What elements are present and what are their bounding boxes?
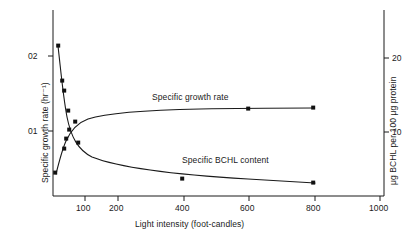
x-ticks [85, 196, 380, 201]
curve-annotation-growth-rate: Specific growth rate [152, 92, 229, 102]
right-y-tick-label-0: 20 [392, 53, 402, 63]
x-tick-label-1000: 1000 [369, 203, 388, 213]
plot-area [0, 0, 420, 239]
x-tick-label-400: 400 [175, 203, 189, 213]
x-tick-label-800: 800 [306, 203, 320, 213]
left-y-tick-label-0: 02 [28, 51, 38, 61]
chart-figure: 02 01 20 10 100 200 400 600 800 1000 Spe… [0, 0, 420, 239]
x-tick-label-600: 600 [240, 203, 254, 213]
x-tick-label-100: 100 [76, 203, 90, 213]
x-tick-label-200: 200 [109, 203, 123, 213]
left-y-tick-label-1: 01 [28, 126, 38, 136]
right-y-axis-title: μg BCHL per 100 μg protein [388, 77, 398, 185]
curve-annotation-bchl-content: Specific BCHL content [182, 155, 269, 165]
x-axis-title: Light intensity (foot-candles) [135, 219, 244, 229]
left-y-axis-title: Specific growth rate (hr⁻¹) [40, 82, 50, 183]
